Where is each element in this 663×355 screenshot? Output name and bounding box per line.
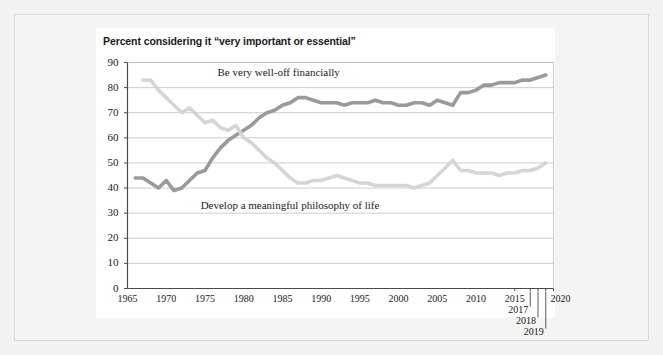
chart-title: Percent considering it “very important o… bbox=[103, 35, 356, 47]
scanned-page: Percent considering it “very important o… bbox=[0, 0, 663, 355]
figure-panel: Percent considering it “very important o… bbox=[96, 28, 555, 318]
